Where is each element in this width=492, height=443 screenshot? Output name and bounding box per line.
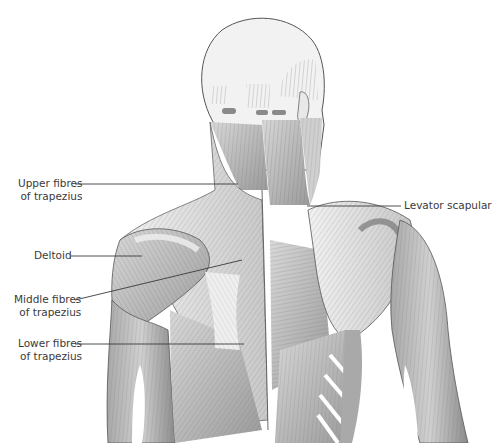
- label-upper-trapezius: Upper fibres of trapezius: [18, 177, 82, 203]
- label-lower-trapezius-line2: of trapezius: [18, 350, 82, 363]
- label-upper-trapezius-line2: of trapezius: [18, 190, 82, 203]
- label-deltoid-line1: Deltoid: [34, 249, 72, 262]
- label-lower-trapezius-line1: Lower fibres: [18, 337, 82, 350]
- label-upper-trapezius-line1: Upper fibres: [18, 177, 82, 190]
- label-middle-trapezius-line2: of trapezius: [14, 306, 81, 319]
- label-middle-trapezius: Middle fibres of trapezius: [14, 293, 81, 319]
- label-levator-scapulae: Levator scapular: [404, 199, 492, 212]
- label-levator-scapulae-line1: Levator scapular: [404, 199, 492, 212]
- label-deltoid: Deltoid: [34, 249, 72, 262]
- right-arm: [391, 220, 468, 443]
- left-arm: [107, 300, 175, 443]
- label-middle-trapezius-line1: Middle fibres: [14, 293, 81, 306]
- label-lower-trapezius: Lower fibres of trapezius: [18, 337, 82, 363]
